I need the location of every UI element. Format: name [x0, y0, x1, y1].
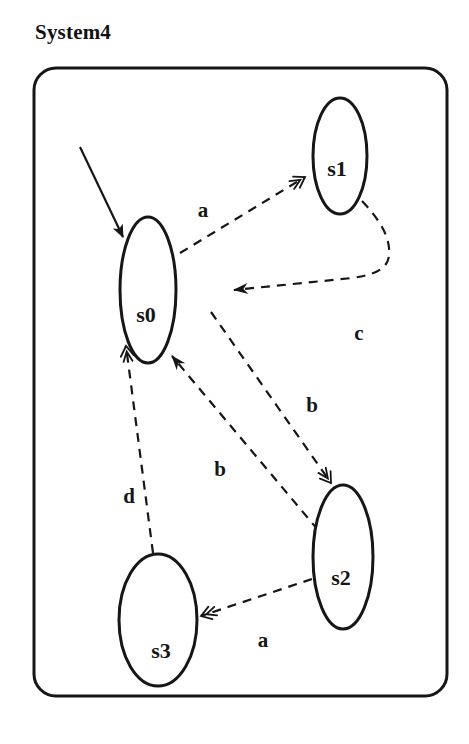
transition-label-s0-s2: b	[306, 393, 318, 417]
state-s1-label: s1	[327, 156, 347, 181]
state-s2-ellipse	[313, 485, 373, 629]
initial-state-arrow	[80, 147, 123, 237]
transition-label-s2-s0: b	[214, 457, 226, 481]
transition-s2-to-s3	[201, 579, 312, 616]
state-s3-label: s3	[151, 638, 171, 663]
state-s0-ellipse	[120, 217, 176, 363]
transition-label-s1-s0: c	[354, 321, 363, 345]
state-s0-label: s0	[136, 302, 156, 327]
state-s3-ellipse	[119, 554, 197, 686]
state-s2-label: s2	[331, 565, 351, 590]
transition-s2-to-s0	[172, 356, 318, 530]
system-frame	[34, 68, 447, 696]
transition-s1-to-s0	[234, 201, 389, 290]
transition-label-s3-s0: d	[123, 484, 135, 508]
transition-label-s2-s3: a	[258, 628, 269, 652]
transition-s3-to-s0	[126, 346, 153, 553]
page: System4 acbbdas0s1s2s3	[0, 0, 469, 744]
transition-label-s0-s1: a	[198, 198, 209, 222]
state-diagram-canvas: acbbdas0s1s2s3	[0, 0, 469, 744]
